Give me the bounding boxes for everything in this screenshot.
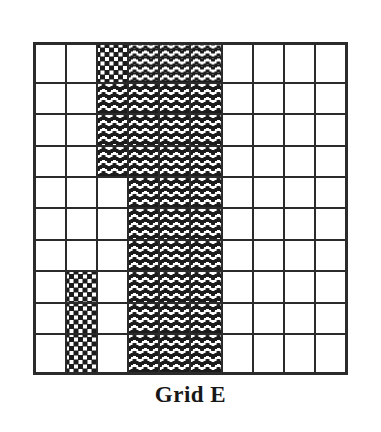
grid-row [35, 240, 347, 271]
grid-cell-r8-c5 [159, 271, 190, 302]
grid-row [35, 83, 347, 114]
grid-cell-r2-c2 [66, 83, 97, 114]
grid-cell-r8-c7 [222, 271, 253, 302]
grid-cell-r6-c2 [66, 208, 97, 239]
grid-cell-r8-c2 [66, 271, 97, 302]
grid-cell-r4-c10 [315, 146, 346, 177]
grid-cell-r5-c4 [128, 177, 159, 208]
grid-cell-r4-c4 [128, 146, 159, 177]
grid-cell-r8-c8 [253, 271, 284, 302]
grid-cell-r1-c2 [66, 44, 97, 83]
grid-cell-r9-c1 [35, 303, 66, 334]
grid-cell-r3-c4 [128, 114, 159, 145]
grid-figure: Grid E [0, 0, 381, 432]
grid-cell-r3-c8 [253, 114, 284, 145]
grid-cell-r2-c1 [35, 83, 66, 114]
grid-cell-r6-c8 [253, 208, 284, 239]
grid-cell-r2-c6 [190, 83, 221, 114]
grid-cell-r1-c10 [315, 44, 346, 83]
grid-cell-r8-c3 [97, 271, 128, 302]
grid-cell-r1-c7 [222, 44, 253, 83]
grid-cell-r6-c3 [97, 208, 128, 239]
grid-cell-r3-c5 [159, 114, 190, 145]
grid-cell-r2-c10 [315, 83, 346, 114]
grid-cell-r9-c3 [97, 303, 128, 334]
grid-cell-r10-c4 [128, 334, 159, 373]
grid-cell-r8-c6 [190, 271, 221, 302]
grid-cell-r2-c8 [253, 83, 284, 114]
grid-cell-r7-c7 [222, 240, 253, 271]
grid-cell-r9-c2 [66, 303, 97, 334]
grid-body [35, 44, 347, 374]
grid-cell-r6-c10 [315, 208, 346, 239]
grid-cell-r7-c2 [66, 240, 97, 271]
grid-cell-r5-c9 [284, 177, 315, 208]
grid-cell-r1-c6 [190, 44, 221, 83]
grid-cell-r1-c3 [97, 44, 128, 83]
grid-cell-r4-c6 [190, 146, 221, 177]
grid-row [35, 271, 347, 302]
grid-cell-r5-c8 [253, 177, 284, 208]
grid-cell-r5-c1 [35, 177, 66, 208]
grid-cell-r10-c8 [253, 334, 284, 373]
grid-row [35, 303, 347, 334]
grid-cell-r9-c6 [190, 303, 221, 334]
grid-cell-r10-c10 [315, 334, 346, 373]
grid-cell-r8-c9 [284, 271, 315, 302]
grid-cell-r6-c7 [222, 208, 253, 239]
pattern-grid [33, 42, 348, 375]
grid-cell-r7-c5 [159, 240, 190, 271]
grid-cell-r4-c2 [66, 146, 97, 177]
grid-cell-r1-c8 [253, 44, 284, 83]
grid-cell-r8-c10 [315, 271, 346, 302]
grid-row [35, 114, 347, 145]
grid-cell-r3-c10 [315, 114, 346, 145]
figure-caption: Grid E [0, 382, 381, 408]
grid-cell-r4-c7 [222, 146, 253, 177]
grid-cell-r4-c1 [35, 146, 66, 177]
grid-cell-r7-c8 [253, 240, 284, 271]
grid-cell-r7-c1 [35, 240, 66, 271]
grid-cell-r9-c5 [159, 303, 190, 334]
grid-container [33, 42, 348, 375]
grid-cell-r7-c6 [190, 240, 221, 271]
grid-cell-r4-c5 [159, 146, 190, 177]
grid-cell-r1-c4 [128, 44, 159, 83]
grid-cell-r10-c5 [159, 334, 190, 373]
grid-cell-r2-c5 [159, 83, 190, 114]
grid-cell-r9-c8 [253, 303, 284, 334]
grid-cell-r10-c3 [97, 334, 128, 373]
grid-row [35, 334, 347, 373]
grid-cell-r8-c1 [35, 271, 66, 302]
grid-row [35, 177, 347, 208]
grid-cell-r3-c1 [35, 114, 66, 145]
grid-cell-r1-c9 [284, 44, 315, 83]
grid-cell-r5-c7 [222, 177, 253, 208]
grid-cell-r5-c6 [190, 177, 221, 208]
grid-cell-r9-c10 [315, 303, 346, 334]
grid-cell-r6-c9 [284, 208, 315, 239]
grid-row [35, 44, 347, 83]
grid-cell-r10-c7 [222, 334, 253, 373]
grid-cell-r9-c7 [222, 303, 253, 334]
grid-row [35, 146, 347, 177]
grid-cell-r2-c4 [128, 83, 159, 114]
grid-cell-r5-c5 [159, 177, 190, 208]
grid-cell-r9-c9 [284, 303, 315, 334]
grid-cell-r6-c5 [159, 208, 190, 239]
grid-cell-r1-c1 [35, 44, 66, 83]
grid-cell-r1-c5 [159, 44, 190, 83]
grid-cell-r7-c9 [284, 240, 315, 271]
grid-cell-r6-c6 [190, 208, 221, 239]
grid-cell-r7-c10 [315, 240, 346, 271]
grid-cell-r4-c3 [97, 146, 128, 177]
grid-cell-r7-c3 [97, 240, 128, 271]
grid-cell-r4-c9 [284, 146, 315, 177]
grid-cell-r6-c4 [128, 208, 159, 239]
grid-cell-r3-c6 [190, 114, 221, 145]
grid-cell-r10-c2 [66, 334, 97, 373]
grid-cell-r4-c8 [253, 146, 284, 177]
grid-cell-r2-c3 [97, 83, 128, 114]
grid-cell-r9-c4 [128, 303, 159, 334]
grid-cell-r5-c2 [66, 177, 97, 208]
